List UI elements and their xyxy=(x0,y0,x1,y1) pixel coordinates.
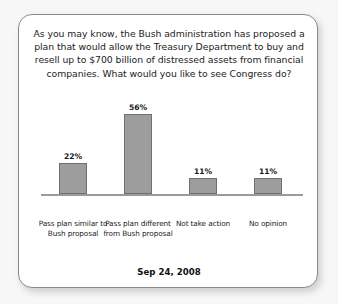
bar-1 xyxy=(124,114,152,194)
bar-group-2: 11% xyxy=(171,98,235,194)
bar-column-1: 56% xyxy=(106,98,170,194)
chart-question-title: As you may know, the Bush administration… xyxy=(31,27,307,80)
bar-column-3: 11% xyxy=(236,98,300,194)
category-label-3: No opinion xyxy=(231,219,305,229)
category-label-0: Pass plan similar to Bush proposal xyxy=(36,219,110,238)
bar-group-0: 22% xyxy=(41,98,105,194)
bar-group-1: 56% xyxy=(106,98,170,194)
bar-column-0: 22% xyxy=(41,98,105,194)
bar-3 xyxy=(254,178,282,194)
bar-2 xyxy=(189,178,217,194)
bar-column-2: 11% xyxy=(171,98,235,194)
bar-0 xyxy=(59,163,87,195)
bar-value-label-1: 56% xyxy=(129,103,147,112)
chart-card: As you may know, the Bush administration… xyxy=(18,14,318,288)
chart-baseline-axis xyxy=(41,194,303,196)
bar-value-label-2: 11% xyxy=(194,167,212,176)
bar-chart-plot-area: 22% 56% 11% 11% xyxy=(19,87,318,217)
bar-value-label-0: 22% xyxy=(64,152,82,161)
bar-value-label-3: 11% xyxy=(259,167,277,176)
category-label-2: Not take action xyxy=(166,219,240,229)
bar-group-3: 11% xyxy=(236,98,300,194)
category-label-1: Pass plan different from Bush proposal xyxy=(101,219,175,238)
chart-footer-date: Sep 24, 2008 xyxy=(19,267,318,277)
